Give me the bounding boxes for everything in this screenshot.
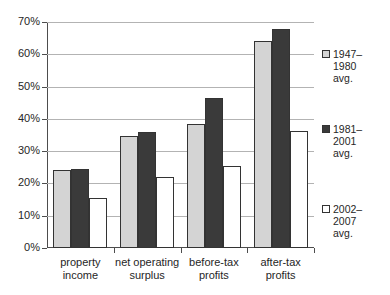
bar xyxy=(272,29,290,248)
y-axis-tick-mark xyxy=(42,248,47,249)
bar xyxy=(254,41,272,248)
bar-group xyxy=(114,22,181,248)
y-axis-tick-label: 10% xyxy=(0,210,40,221)
legend-item[interactable]: 1947– 1980 avg. xyxy=(322,48,390,84)
legend-item[interactable]: 2002– 2007 avg. xyxy=(322,203,390,239)
legend-item-label: 2002– 2007 avg. xyxy=(333,203,362,239)
bar xyxy=(89,198,107,248)
x-axis-tick-mark xyxy=(314,248,315,253)
y-axis-tick-label: 40% xyxy=(0,113,40,124)
plot-area xyxy=(47,22,314,248)
bar xyxy=(205,98,223,248)
x-axis-tick-label: after-tax profits xyxy=(238,256,324,282)
y-axis-tick-label: 0% xyxy=(0,242,40,253)
bar xyxy=(156,177,174,248)
legend-swatch-icon xyxy=(322,125,330,133)
bar xyxy=(138,132,156,248)
bar-chart: 0%10%20%30%40%50%60%70% property incomen… xyxy=(0,0,390,295)
bar xyxy=(290,131,308,248)
bar xyxy=(120,136,138,248)
bar-group xyxy=(247,22,314,248)
y-axis-tick-label: 70% xyxy=(0,16,40,27)
x-axis-tick-mark xyxy=(114,248,115,253)
x-axis-tick-mark xyxy=(181,248,182,253)
bar xyxy=(187,124,205,248)
legend-swatch-icon xyxy=(322,205,330,213)
bar-group xyxy=(47,22,114,248)
y-axis-tick-label: 60% xyxy=(0,48,40,59)
bar xyxy=(71,169,89,248)
bar xyxy=(223,166,241,248)
chart-legend: 1947– 1980 avg.1981– 2001 avg.2002– 2007… xyxy=(322,0,390,295)
y-axis-tick-label: 50% xyxy=(0,81,40,92)
legend-swatch-icon xyxy=(322,50,330,58)
legend-item[interactable]: 1981– 2001 avg. xyxy=(322,123,390,159)
x-axis-tick-mark xyxy=(247,248,248,253)
legend-item-label: 1947– 1980 avg. xyxy=(333,48,362,84)
bar-group xyxy=(181,22,248,248)
legend-item-label: 1981– 2001 avg. xyxy=(333,123,362,159)
y-axis-tick-label: 20% xyxy=(0,177,40,188)
bar xyxy=(53,170,71,248)
y-axis-tick-label: 30% xyxy=(0,145,40,156)
bar-groups xyxy=(47,22,314,248)
